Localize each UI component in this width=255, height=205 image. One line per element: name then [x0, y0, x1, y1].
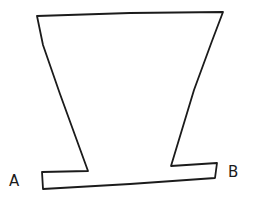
- plank-end-label-a: A: [9, 174, 19, 189]
- diagram-canvas: A B: [0, 0, 255, 205]
- plank-end-label-b: B: [228, 165, 238, 180]
- figure-outline: [37, 12, 223, 189]
- trapezoid-on-plank-figure: [0, 0, 255, 205]
